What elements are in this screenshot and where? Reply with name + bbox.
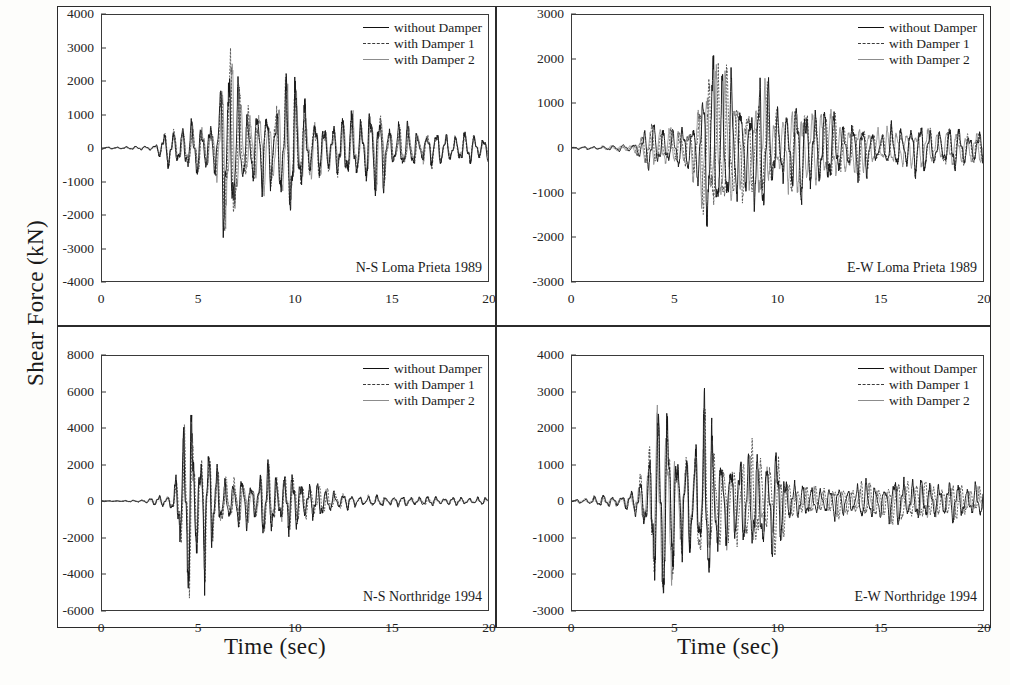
y-tick-mark — [571, 192, 576, 193]
series-without-damper — [102, 415, 488, 596]
y-tick-label: -3000 — [514, 274, 564, 290]
y-tick-label: -1000 — [514, 530, 564, 546]
seismic-shear-force-figure: Shear Force (kN) Time (sec) Time (sec) w… — [0, 0, 1010, 685]
legend-item-with-damper-2: with Damper 2 — [858, 393, 977, 409]
legend-bottom-right: without Damperwith Damper 1with Damper 2 — [858, 361, 977, 409]
legend-label: without Damper — [889, 361, 977, 377]
y-tick-mark — [571, 237, 576, 238]
panel-caption-top-left: N-S Loma Prieta 1989 — [356, 260, 482, 276]
y-tick-label: 8000 — [44, 347, 94, 363]
y-tick-mark — [571, 428, 576, 429]
x-tick-label: 20 — [482, 291, 496, 307]
y-tick-mark — [101, 114, 106, 115]
y-tick-label: 0 — [44, 493, 94, 509]
legend-bottom-left: without Damperwith Damper 1with Damper 2 — [363, 361, 482, 409]
series-with-damper-1 — [572, 409, 983, 590]
legend-key-dashed-icon — [363, 39, 389, 48]
legend-top-right: without Damperwith Damper 1with Damper 2 — [858, 20, 977, 68]
y-tick-mark — [571, 14, 576, 15]
y-tick-mark — [101, 81, 106, 82]
y-tick-mark — [571, 574, 576, 575]
panel-caption-bottom-left: N-S Northridge 1994 — [363, 589, 482, 605]
x-tick-label: 15 — [874, 620, 888, 636]
figure-horizontal-divider — [57, 325, 991, 327]
legend-key-solid-icon — [858, 364, 884, 373]
y-tick-label: 1000 — [514, 457, 564, 473]
legend-key-solid-icon — [858, 23, 884, 32]
legend-label: with Damper 2 — [394, 52, 475, 68]
x-tick-label: 15 — [385, 620, 399, 636]
plot-area-bottom-left: without Damperwith Damper 1with Damper 2… — [101, 355, 489, 611]
legend-key-solid-grey-icon — [363, 396, 389, 405]
series-with-damper-1 — [572, 63, 983, 215]
legend-item-with-damper-1: with Damper 1 — [363, 377, 482, 393]
plot-area-bottom-right: without Damperwith Damper 1with Damper 2… — [571, 355, 984, 611]
y-tick-mark — [571, 391, 576, 392]
legend-label: without Damper — [889, 20, 977, 36]
legend-item-with-damper-2: with Damper 2 — [363, 393, 482, 409]
legend-label: with Damper 1 — [889, 36, 970, 52]
y-tick-label: 0 — [44, 140, 94, 156]
y-tick-label: -1000 — [514, 185, 564, 201]
x-tick-label: 20 — [482, 620, 496, 636]
legend-item-with-damper-1: with Damper 1 — [858, 377, 977, 393]
plot-area-top-right: without Damperwith Damper 1with Damper 2… — [571, 14, 984, 282]
y-tick-label: 3000 — [514, 384, 564, 400]
y-tick-label: 0 — [514, 493, 564, 509]
x-tick-label: 20 — [977, 620, 991, 636]
y-tick-mark — [101, 391, 106, 392]
legend-key-solid-grey-icon — [858, 55, 884, 64]
legend-item-with-damper-2: with Damper 2 — [858, 52, 977, 68]
x-tick-label: 5 — [195, 291, 202, 307]
y-tick-mark — [101, 148, 106, 149]
series-without-damper — [572, 56, 983, 227]
y-tick-label: -2000 — [44, 207, 94, 223]
plot-area-top-left: without Damperwith Damper 1with Damper 2… — [101, 14, 489, 282]
legend-item-without-damper: without Damper — [858, 20, 977, 36]
legend-item-with-damper-1: with Damper 1 — [858, 36, 977, 52]
legend-key-dashed-icon — [363, 380, 389, 389]
y-tick-label: -6000 — [44, 603, 94, 619]
y-tick-mark — [101, 47, 106, 48]
x-tick-label: 20 — [977, 291, 991, 307]
y-tick-mark — [571, 611, 576, 612]
y-tick-mark — [571, 501, 576, 502]
y-tick-mark — [101, 537, 106, 538]
legend-key-dashed-icon — [858, 39, 884, 48]
y-tick-mark — [101, 464, 106, 465]
y-tick-label: 1000 — [514, 95, 564, 111]
x-tick-label: 10 — [288, 620, 302, 636]
y-tick-label: 2000 — [514, 51, 564, 67]
legend-key-solid-icon — [363, 364, 389, 373]
x-tick-label: 10 — [771, 620, 785, 636]
y-tick-mark — [571, 103, 576, 104]
y-tick-label: -3000 — [514, 603, 564, 619]
legend-label: with Damper 1 — [394, 377, 475, 393]
legend-key-solid-icon — [363, 23, 389, 32]
x-tick-label: 5 — [671, 291, 678, 307]
y-tick-mark — [101, 248, 106, 249]
legend-label: without Damper — [394, 20, 482, 36]
series-with-damper-2 — [572, 405, 983, 586]
legend-item-without-damper: without Damper — [363, 20, 482, 36]
legend-key-dashed-icon — [858, 380, 884, 389]
x-tick-label: 5 — [195, 620, 202, 636]
y-tick-label: 4000 — [44, 6, 94, 22]
y-tick-label: 3000 — [44, 40, 94, 56]
figure-vertical-divider — [495, 6, 497, 628]
legend-item-with-damper-1: with Damper 1 — [363, 36, 482, 52]
y-tick-mark — [101, 501, 106, 502]
x-tick-label: 15 — [385, 291, 399, 307]
x-axis-title-left: Time (sec) — [125, 634, 425, 660]
y-tick-mark — [101, 355, 106, 356]
legend-item-with-damper-2: with Damper 2 — [363, 52, 482, 68]
panel-caption-top-right: E-W Loma Prieta 1989 — [847, 260, 977, 276]
legend-label: with Damper 2 — [889, 393, 970, 409]
y-tick-mark — [101, 574, 106, 575]
panel-caption-bottom-right: E-W Northridge 1994 — [854, 589, 977, 605]
legend-label: with Damper 1 — [889, 377, 970, 393]
y-tick-label: 6000 — [44, 384, 94, 400]
x-tick-label: 0 — [98, 620, 105, 636]
y-tick-label: 0 — [514, 140, 564, 156]
legend-label: with Damper 2 — [394, 393, 475, 409]
